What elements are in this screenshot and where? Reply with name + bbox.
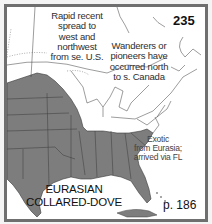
note-line: pioneers have	[99, 51, 179, 61]
range-map: Rapid recent spread to west and northwes…	[4, 4, 208, 222]
species-name-line1: EURASIAN	[19, 183, 129, 196]
note-origin: Exotic from Eurasia; arrived via FL	[125, 135, 191, 163]
species-name: EURASIAN COLLARED-DOVE	[19, 183, 129, 209]
note-line: spread to	[37, 21, 117, 31]
species-name-line2: COLLARED-DOVE	[19, 196, 129, 209]
map-number: 235	[173, 13, 195, 28]
note-line: to s. Canada	[99, 72, 179, 82]
note-line: arrived via FL	[125, 153, 191, 162]
page-reference: p. 186	[163, 198, 196, 212]
note-north-wanderers: Wanderers or pioneers have occurred nort…	[99, 41, 179, 82]
